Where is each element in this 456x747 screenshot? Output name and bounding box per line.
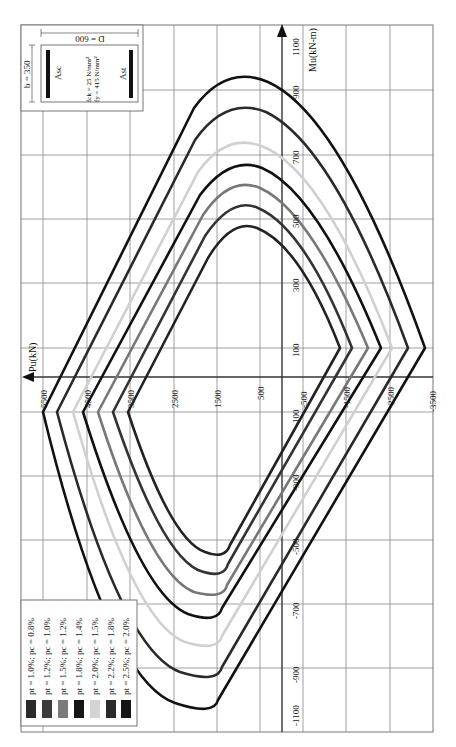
svg-text:-300: -300 [291,474,301,491]
p-axis-arrow-icon [22,372,34,382]
legend-item: pt = 1.5%; pc = 1.2% [58,618,68,718]
svg-text:pt = 2.0%; pc = 1.5%: pt = 2.0%; pc = 1.5% [90,618,100,695]
legend-item: pt = 1.8%; pc = 1.4% [74,618,84,718]
legend-item: pt = 2.2%; pc = 1.8% [106,618,116,718]
curve-pt-1.0 [128,226,340,555]
svg-text:-700: -700 [291,602,301,619]
legend-swatch [106,700,116,718]
fck-label: fck = 25 N/mm² [85,57,93,102]
svg-text:700: 700 [291,150,301,164]
ast-label: Ast [118,67,128,80]
svg-text:2500: 2500 [170,390,180,409]
m-tick-labels: 1100 900 700 500 300 100 -100 -300 -500 … [291,38,301,726]
svg-text:500: 500 [291,214,301,228]
svg-text:-500: -500 [291,538,301,555]
legend-item: pt = 1.2%; pc = 1.0% [42,618,52,718]
b-dimension: b = 350 [22,60,32,88]
legend-item: pt = 2.0%; pc = 1.5% [90,618,100,718]
svg-text:-2500: -2500 [386,387,396,408]
svg-text:pt = 1.2%; pc = 1.0%: pt = 1.2%; pc = 1.0% [42,618,52,695]
svg-text:1100: 1100 [291,38,301,56]
svg-text:pt = 2.2%; pc = 1.8%: pt = 2.2%; pc = 1.8% [106,618,116,695]
legend-swatch [74,700,84,718]
svg-text:900: 900 [291,85,301,99]
svg-text:-500: -500 [299,391,309,408]
legend-swatch [90,700,100,718]
svg-text:-900: -900 [291,666,301,683]
svg-text:pt = 1.5%; pc = 1.2%: pt = 1.5%; pc = 1.2% [58,618,68,695]
cross-section-inset: D = 600 b = 350 Asc Ast fck = 25 N/mm² f… [21,25,143,111]
legend-swatch [121,700,131,718]
svg-text:100: 100 [291,343,301,357]
svg-text:500: 500 [256,386,266,400]
asc-label: Asc [53,66,63,80]
svg-text:1500: 1500 [213,390,223,409]
m-gridlines [21,90,433,668]
legend-swatch [58,700,68,718]
legend: pt = 1.0%; pc = 0.8% pt = 1.2%; pc = 1.0… [21,600,137,726]
legend-item: pt = 1.0%; pc = 0.8% [26,618,36,718]
ast-bar [129,50,133,98]
svg-text:-1500: -1500 [342,387,352,408]
svg-text:4500: 4500 [83,390,93,409]
svg-text:5500: 5500 [39,390,49,409]
legend-swatch [26,700,36,718]
svg-text:-1100: -1100 [291,705,301,726]
asc-bar [46,50,50,98]
svg-text:pt = 1.8%; pc = 1.4%: pt = 1.8%; pc = 1.4% [74,618,84,695]
m-axis-label: Mu(kN-m) [307,28,319,72]
svg-text:pt = 2.5%; pc = 2.0%: pt = 2.5%; pc = 2.0% [121,618,131,695]
p-axis-label: Pu(kN) [27,343,39,372]
d-dimension: D = 600 [75,34,105,44]
svg-text:pt = 1.0%; pc = 0.8%: pt = 1.0%; pc = 0.8% [26,618,36,695]
legend-item: pt = 2.5%; pc = 2.0% [121,618,131,718]
svg-text:-3500: -3500 [428,391,438,412]
interaction-chart: 5500 4500 3500 2500 1500 500 -500 -1500 … [0,0,456,747]
svg-text:-100: -100 [291,409,301,426]
m-axis [277,24,287,732]
svg-text:3500: 3500 [126,390,136,409]
svg-text:300: 300 [291,278,301,292]
m-axis-arrow-icon [277,24,287,37]
fy-label: fy = 415 N/mm² [93,56,101,102]
legend-swatch [42,700,52,718]
